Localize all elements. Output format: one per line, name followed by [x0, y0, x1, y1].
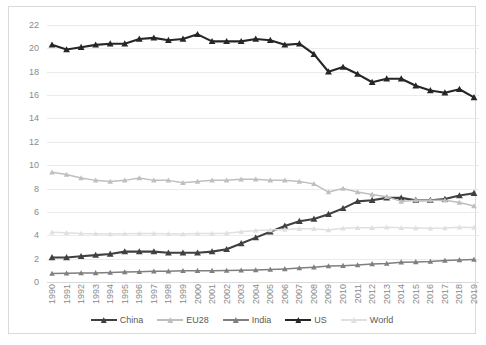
- x-axis-tick-label: 1994: [105, 284, 115, 304]
- legend-item-india[interactable]: India: [223, 315, 272, 325]
- x-axis-line: [47, 282, 479, 283]
- x-axis-tick-label: 1992: [76, 284, 86, 304]
- series-line: [52, 34, 474, 97]
- legend-item-world[interactable]: World: [341, 315, 393, 325]
- x-axis-tick-label: 1990: [47, 284, 57, 304]
- x-axis-tick-label: 1998: [163, 284, 173, 304]
- y-axis-tick-label: 2: [13, 254, 39, 264]
- x-axis-tick-label: 2005: [265, 284, 275, 304]
- x-axis-tick-label: 1991: [62, 284, 72, 304]
- series-layer: [47, 25, 479, 282]
- x-axis-tick-label: 2017: [440, 284, 450, 304]
- series-line: [52, 193, 474, 257]
- y-axis-tick-label: 6: [13, 207, 39, 217]
- y-axis: 0246810121416182022: [9, 25, 39, 282]
- x-axis-tick-label: 2008: [309, 284, 319, 304]
- y-axis-tick-label: 14: [13, 113, 39, 123]
- y-axis-tick-label: 8: [13, 184, 39, 194]
- x-axis-tick-label: 2006: [280, 284, 290, 304]
- x-axis-tick-label: 2015: [411, 284, 421, 304]
- x-axis-tick-label: 1999: [178, 284, 188, 304]
- series-line: [52, 260, 474, 274]
- x-axis-tick-label: 1993: [91, 284, 101, 304]
- x-axis-tick-label: 2011: [353, 284, 363, 303]
- legend-label: US: [314, 315, 327, 325]
- x-axis-tick-label: 2007: [294, 284, 304, 304]
- x-axis-tick-label: 2004: [251, 284, 261, 304]
- y-axis-tick-label: 4: [13, 230, 39, 240]
- x-axis-tick-label: 2018: [454, 284, 464, 304]
- y-axis-tick-label: 0: [13, 277, 39, 287]
- chart-container: 0246810121416182022 19901991199219931994…: [8, 6, 476, 334]
- x-axis-tick-label: 2014: [396, 284, 406, 304]
- data-point-marker: [340, 64, 347, 70]
- y-axis-tick-label: 12: [13, 137, 39, 147]
- legend-label: India: [252, 315, 272, 325]
- x-axis-tick-label: 2000: [193, 284, 203, 304]
- series-line: [52, 172, 474, 206]
- chart-legend: ChinaEU28IndiaUSWorld: [9, 310, 475, 330]
- y-axis-tick-label: 18: [13, 67, 39, 77]
- x-axis-tick-label: 2002: [222, 284, 232, 304]
- x-axis-tick-label: 2012: [367, 284, 377, 304]
- series-line: [52, 227, 474, 234]
- legend-swatch-icon: [341, 315, 367, 325]
- legend-label: World: [370, 315, 393, 325]
- data-point-marker: [194, 31, 201, 37]
- x-axis-tick-label: 2009: [323, 284, 333, 304]
- legend-item-us[interactable]: US: [285, 315, 327, 325]
- series-india: [49, 257, 477, 276]
- y-axis-tick-label: 16: [13, 90, 39, 100]
- legend-swatch-icon: [157, 315, 183, 325]
- legend-swatch-icon: [285, 315, 311, 325]
- x-axis-tick-label: 2013: [382, 284, 392, 304]
- legend-item-eu28[interactable]: EU28: [157, 315, 209, 325]
- x-axis-tick-label: 2016: [425, 284, 435, 304]
- x-axis-tick-label: 1996: [134, 284, 144, 304]
- series-us: [49, 31, 478, 100]
- y-axis-tick-label: 22: [13, 20, 39, 30]
- y-axis-tick-label: 20: [13, 43, 39, 53]
- x-axis-tick-label: 2003: [236, 284, 246, 304]
- y-axis-tick-label: 10: [13, 160, 39, 170]
- legend-label: EU28: [186, 315, 209, 325]
- x-axis-tick-label: 2019: [469, 284, 479, 304]
- x-axis-tick-label: 2001: [207, 284, 217, 304]
- data-point-marker: [49, 41, 56, 47]
- x-axis-tick-label: 1997: [149, 284, 159, 304]
- legend-swatch-icon: [91, 315, 117, 325]
- legend-swatch-icon: [223, 315, 249, 325]
- legend-label: China: [120, 315, 144, 325]
- legend-item-china[interactable]: China: [91, 315, 144, 325]
- plot-area: [47, 25, 479, 282]
- x-axis-tick-label: 1995: [120, 284, 130, 304]
- x-axis-tick-label: 2010: [338, 284, 348, 304]
